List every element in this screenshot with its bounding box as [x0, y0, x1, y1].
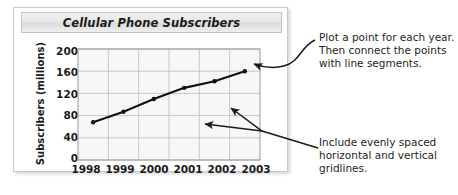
chart-panel: Cellular Phone Subscribers Subscribers (…: [13, 7, 288, 172]
annotation-gridlines: Include evenly spaced horizontal and ver…: [319, 136, 458, 176]
data-point-2003: [243, 69, 247, 73]
plot-area: [14, 8, 289, 173]
annotation-plot-points: Plot a point for each year. Then connect…: [319, 31, 458, 71]
data-point-2000: [152, 97, 156, 101]
data-point-1998: [91, 120, 95, 124]
data-point-2001: [182, 86, 186, 90]
data-point-2002: [212, 79, 216, 83]
data-point-1999: [121, 110, 125, 114]
